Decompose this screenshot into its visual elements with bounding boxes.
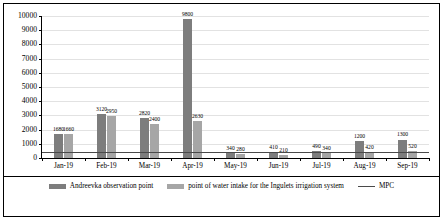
bar-series-a[interactable] bbox=[183, 19, 193, 158]
x-tick-mark bbox=[171, 158, 172, 161]
y-tick-label: 1000 bbox=[22, 140, 37, 148]
bar-value-label-a: 9800 bbox=[180, 12, 196, 18]
mpc-threshold-line bbox=[42, 152, 429, 153]
bar-swatch-light-icon bbox=[167, 184, 184, 189]
y-tick-label: 0 bbox=[33, 154, 37, 162]
x-tick-mark bbox=[42, 158, 43, 161]
x-tick-mark bbox=[257, 158, 258, 161]
y-tick-label: 6000 bbox=[22, 69, 37, 77]
y-tick-label: 3000 bbox=[22, 112, 37, 120]
x-tick-label: Mar-19 bbox=[139, 163, 160, 170]
x-tick-mark bbox=[386, 158, 387, 161]
bar-group: 28202400 bbox=[128, 16, 171, 158]
bar-value-label-b: 2630 bbox=[190, 114, 206, 120]
bar-series-b[interactable] bbox=[322, 153, 332, 158]
x-tick-label: Jan-19 bbox=[54, 163, 73, 170]
legend-item-mpc: MPC bbox=[358, 183, 394, 190]
legend-item-series-b: point of water intake for the Ingulets i… bbox=[167, 183, 344, 190]
bar-swatch-dark-icon bbox=[49, 184, 66, 189]
x-tick-label: Apr-19 bbox=[182, 163, 203, 170]
x-tick-mark bbox=[429, 158, 430, 161]
y-tick-label: 5000 bbox=[22, 83, 37, 91]
bar-value-label-b: 520 bbox=[405, 144, 421, 150]
bar-value-label-b: 1660 bbox=[61, 127, 77, 133]
bar-group: 340280 bbox=[214, 16, 257, 158]
bar-series-b[interactable] bbox=[64, 134, 74, 158]
legend-label-series-b: point of water intake for the Ingulets i… bbox=[188, 183, 344, 190]
x-tick-label: Aug-19 bbox=[354, 163, 376, 170]
y-tick-label: 8000 bbox=[22, 41, 37, 49]
y-tick-label: 7000 bbox=[22, 55, 37, 63]
bar-value-label-b: 2950 bbox=[104, 109, 120, 115]
bar-group: 410210 bbox=[257, 16, 300, 158]
bar-series-b[interactable] bbox=[279, 155, 289, 158]
bar-series-a[interactable] bbox=[54, 134, 64, 158]
x-tick-label: Jul-19 bbox=[313, 163, 331, 170]
y-tick-label: 2000 bbox=[22, 126, 37, 134]
bar-series-a[interactable] bbox=[226, 153, 236, 158]
bar-series-b[interactable] bbox=[236, 154, 246, 158]
bar-group: 490340 bbox=[300, 16, 343, 158]
legend-label-mpc: MPC bbox=[379, 183, 394, 190]
x-tick-label: Jun-19 bbox=[269, 163, 289, 170]
bar-group: 31202950 bbox=[85, 16, 128, 158]
y-tick-label: 10000 bbox=[18, 12, 37, 20]
chart-container: 0100020003000400050006000700080009000100… bbox=[0, 0, 443, 220]
bar-group: 1300520 bbox=[386, 16, 429, 158]
bar-value-label-b: 420 bbox=[362, 145, 378, 151]
y-tick-label: 4000 bbox=[22, 97, 37, 105]
x-tick-mark bbox=[214, 158, 215, 161]
bar-group: 98002630 bbox=[171, 16, 214, 158]
x-tick-label: Sep-19 bbox=[397, 163, 417, 170]
bar-group: 16801660 bbox=[42, 16, 85, 158]
y-tick-label: 9000 bbox=[22, 26, 37, 34]
chart-legend: Andreevka observation point point of wat… bbox=[3, 176, 440, 196]
legend-label-series-a: Andreevka observation point bbox=[70, 183, 153, 190]
bar-value-label-b: 2400 bbox=[147, 117, 163, 123]
x-tick-mark bbox=[300, 158, 301, 161]
bar-value-label-a: 1300 bbox=[395, 132, 411, 138]
plot-area: 0100020003000400050006000700080009000100… bbox=[41, 16, 429, 159]
x-tick-mark bbox=[343, 158, 344, 161]
x-tick-label: Feb-19 bbox=[96, 163, 116, 170]
bar-value-label-a: 1200 bbox=[352, 134, 368, 140]
bar-group: 1200420 bbox=[343, 16, 386, 158]
x-tick-mark bbox=[128, 158, 129, 161]
x-tick-label: May-19 bbox=[224, 163, 247, 170]
line-swatch-icon bbox=[358, 186, 375, 187]
x-tick-mark bbox=[85, 158, 86, 161]
legend-item-series-a: Andreevka observation point bbox=[49, 183, 153, 190]
